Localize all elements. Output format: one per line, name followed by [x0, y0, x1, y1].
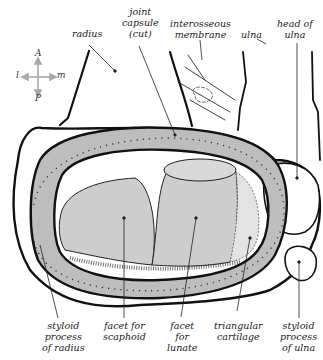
label-facet-for-scaphoid: facet for scaphoid: [103, 320, 146, 342]
compass-anterior: A: [35, 48, 42, 58]
label-interosseous-membrane: interosseous membrane: [170, 18, 231, 40]
compass-lateral: l: [16, 70, 19, 80]
compass-posterior: P: [35, 93, 41, 103]
label-facet-for-lunate: facet for lunate: [167, 320, 197, 353]
orientation-compass-arrows: [22, 58, 56, 96]
facet-lunate-top: [164, 159, 236, 181]
wrist-joint-illustration: [0, 0, 323, 360]
label-head-of-ulna: head of ulna: [277, 18, 313, 40]
label-styloid-process-of-ulna: styloid process of ulna: [280, 320, 317, 353]
label-joint-capsule: joint capsule (cut): [122, 6, 159, 39]
compass-medial: m: [57, 70, 66, 80]
label-ulna: ulna: [241, 29, 262, 40]
label-styloid-process-of-radius: styloid process of radius: [42, 320, 85, 353]
label-triangular-cartilage: triangular cartilage: [214, 320, 263, 342]
label-radius: radius: [72, 28, 102, 39]
